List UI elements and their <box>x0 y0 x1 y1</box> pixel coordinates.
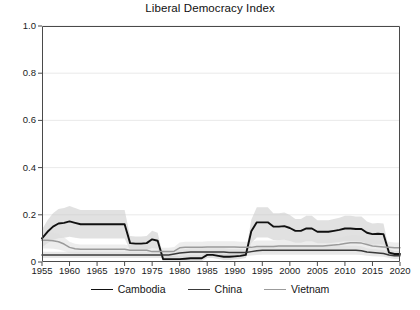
x-axis-tick-labels: 1955196019651970197519801985199019952000… <box>0 266 420 282</box>
x-tick-label: 2000 <box>279 266 300 276</box>
x-tick-label: 1980 <box>169 266 190 276</box>
y-tick-label: 0.2 <box>4 210 36 220</box>
y-axis-ticks <box>38 26 42 262</box>
chart-title: Liberal Democracy Index <box>0 2 420 14</box>
x-tick-label: 1955 <box>31 266 52 276</box>
legend-swatch-vietnam <box>264 289 286 290</box>
legend-label-china: China <box>215 284 242 295</box>
plot-area <box>42 26 400 262</box>
x-tick-label: 2015 <box>362 266 383 276</box>
x-tick-label: 1985 <box>197 266 218 276</box>
legend-label-vietnam: Vietnam <box>291 284 329 295</box>
y-tick-label: 0.6 <box>4 116 36 126</box>
legend-swatch-china <box>188 289 210 290</box>
legend-item-china[interactable]: China <box>188 284 242 295</box>
gridlines <box>42 26 400 215</box>
chart-figure: Liberal Democracy Index 00.20.40.60.81.0… <box>0 0 420 310</box>
confidence-bands <box>42 206 400 262</box>
legend-swatch-cambodia <box>91 289 113 290</box>
plot-svg <box>42 26 400 262</box>
legend-item-cambodia[interactable]: Cambodia <box>91 284 166 295</box>
x-tick-label: 1965 <box>86 266 107 276</box>
y-axis-tick-labels: 00.20.40.60.81.0 <box>0 0 36 310</box>
y-tick-label: 0.4 <box>4 163 36 173</box>
y-tick-label: 0.8 <box>4 68 36 78</box>
legend-item-vietnam[interactable]: Vietnam <box>264 284 329 295</box>
chart-legend: Cambodia China Vietnam <box>0 284 420 295</box>
x-tick-label: 1990 <box>224 266 245 276</box>
x-tick-label: 1960 <box>59 266 80 276</box>
y-tick-label: 1.0 <box>4 21 36 31</box>
legend-label-cambodia: Cambodia <box>118 284 166 295</box>
x-tick-label: 2020 <box>389 266 410 276</box>
x-tick-label: 2005 <box>307 266 328 276</box>
x-tick-label: 1975 <box>142 266 163 276</box>
x-tick-label: 1995 <box>252 266 273 276</box>
x-tick-label: 1970 <box>114 266 135 276</box>
x-tick-label: 2010 <box>334 266 355 276</box>
